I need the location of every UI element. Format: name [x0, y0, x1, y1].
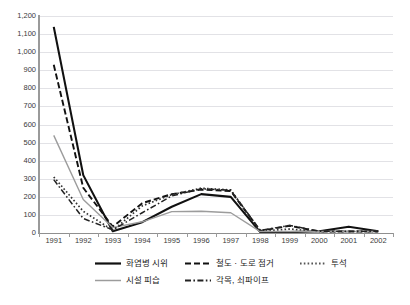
y-axis-tick-label: 100 [0, 211, 36, 219]
legend-label: 각목, 쇠파이프 [216, 275, 269, 285]
legend-item-2[interactable]: 철도 · 도로 점거 [185, 258, 274, 268]
chart-container: 01002003004005006007008009001,0001,1001,… [0, 0, 410, 305]
series-layer [39, 16, 393, 233]
y-axis-tick-label: 1,200 [0, 12, 36, 20]
y-axis-tick-label: 300 [0, 175, 36, 183]
legend-swatch-icon [185, 259, 211, 268]
legend-item-1[interactable]: 화염병 시위 [95, 258, 168, 268]
series-line-3 [54, 177, 379, 232]
y-axis-tick-label: 400 [0, 157, 36, 165]
y-axis-tick-label: 0 [0, 229, 36, 237]
legend-item-5[interactable]: 각목, 쇠파이프 [185, 275, 269, 285]
y-axis-tick-label: 800 [0, 84, 36, 92]
legend-swatch-icon [95, 259, 121, 268]
x-axis-labels: 1991199219931994199519961997199819992000… [39, 236, 393, 250]
legend-item-4[interactable]: 시설 피습 [95, 275, 160, 285]
series-line-2 [54, 65, 379, 232]
legend-label: 시설 피습 [126, 275, 160, 285]
legend-swatch-icon [300, 259, 326, 268]
legend-label: 철도 · 도로 점거 [216, 258, 274, 268]
y-axis-tick-label: 700 [0, 102, 36, 110]
y-axis-line [38, 15, 40, 234]
legend-item-3[interactable]: 투석 [300, 258, 347, 268]
legend-label: 화염병 시위 [126, 258, 168, 268]
chart-title [0, 0, 410, 9]
legend-swatch-icon [185, 276, 211, 285]
x-axis-tick-label: 2002 [360, 236, 396, 246]
y-axis-tick-label: 500 [0, 139, 36, 147]
series-line-4 [54, 135, 379, 231]
y-axis-tick-label: 1,000 [0, 48, 36, 56]
legend-swatch-icon [95, 276, 121, 285]
series-line-5 [54, 180, 379, 232]
chart-legend: 화염병 시위철도 · 도로 점거투석 시설 피습각목, 쇠파이프 [0, 258, 410, 303]
plot-area [39, 16, 393, 233]
legend-row-1: 화염병 시위철도 · 도로 점거투석 [0, 258, 410, 274]
legend-row-2: 시설 피습각목, 쇠파이프 [0, 275, 410, 291]
series-line-1 [54, 27, 379, 232]
y-axis-tick-label: 900 [0, 66, 36, 74]
legend-label: 투석 [331, 258, 347, 268]
y-axis-tick-label: 600 [0, 121, 36, 129]
y-axis-tick-label: 1,100 [0, 30, 36, 38]
y-axis-tick-label: 200 [0, 193, 36, 201]
